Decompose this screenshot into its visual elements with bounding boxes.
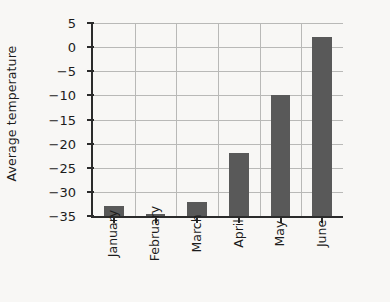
x-axis-tick-label-text: April [230,219,245,248]
y-axis-tick-label: −15 [49,112,76,127]
bar-june [312,37,332,216]
y-axis-tick-mark [87,143,94,145]
y-axis-tick-labels: 50−5−10−15−20−25−30−35 [24,23,84,210]
bar-may [271,95,291,216]
y-axis-tick-label: −25 [49,160,76,175]
x-axis-tick-label: January [92,226,134,302]
x-axis-tick-label-text: March [189,214,204,252]
y-axis-tick-mark [87,119,94,121]
y-axis-tick-label: −20 [49,136,76,151]
x-axis-tick-label: April [217,226,259,302]
x-axis-tick-label: March [175,226,217,302]
y-axis-tick-mark [87,22,94,24]
x-axis-tick-label-text: February [147,206,162,261]
y-axis-tick-label: 5 [68,16,76,31]
plot-area [91,23,343,218]
y-axis-tick-mark [87,94,94,96]
gridline-vertical [260,23,261,216]
y-axis-tick-label: −10 [49,88,76,103]
y-axis-title-label: Average temperature [5,45,20,181]
y-axis-tick-label: 0 [68,40,76,55]
y-axis-tick-mark [87,191,94,193]
bar-april [229,153,249,216]
y-axis-tick-mark [87,215,94,217]
y-axis-tick-label: −5 [57,64,76,79]
x-axis-tick-labels: JanuaryFebruaryMarchAprilMayJune [91,226,343,302]
x-axis-tick-label: February [134,226,176,302]
x-axis-tick-label-text: May [272,221,287,247]
x-axis-tick-label-text: June [314,220,329,247]
y-axis-tick-mark [87,46,94,48]
y-axis-tick-mark [87,167,94,169]
x-axis-tick-label-text: January [105,210,120,257]
bar-chart-figure: Average temperature 50−5−10−15−20−25−30−… [0,0,390,302]
y-axis-title: Average temperature [0,0,24,226]
x-axis-tick-label: June [300,226,342,302]
gridline-vertical [218,23,219,216]
gridline-vertical [176,23,177,216]
y-axis-tick-label: −30 [49,184,76,199]
gridline-vertical [301,23,302,216]
y-axis-tick-mark [87,70,94,72]
x-axis-tick-label: May [259,226,301,302]
y-axis-tick-label: −35 [49,209,76,224]
gridline-vertical [135,23,136,216]
